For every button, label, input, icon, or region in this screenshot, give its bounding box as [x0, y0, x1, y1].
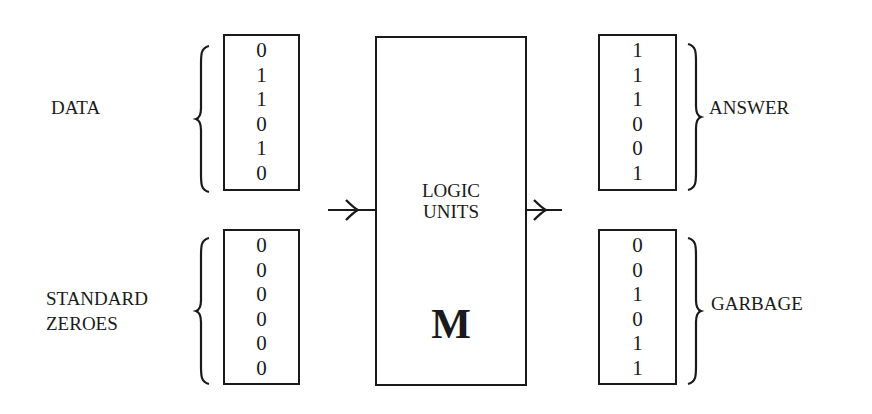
answer-bit: 0	[632, 112, 643, 137]
garbage-brace-icon	[686, 236, 706, 386]
standard-zeroes-label-line1: STANDARD	[46, 286, 148, 311]
data-register: 0 1 1 0 1 0	[223, 34, 300, 191]
standard-zeroes-brace-icon	[195, 236, 215, 386]
answer-bit: 1	[632, 161, 643, 186]
input-arrow-icon	[328, 198, 378, 222]
zero-bit: 0	[256, 307, 267, 332]
garbage-bit: 0	[632, 307, 643, 332]
data-bit: 1	[256, 136, 267, 161]
zero-bit: 0	[256, 282, 267, 307]
zero-bit: 0	[256, 331, 267, 356]
garbage-bit: 1	[632, 282, 643, 307]
zero-bit: 0	[256, 233, 267, 258]
data-bit: 0	[256, 38, 267, 63]
garbage-register: 0 0 1 0 1 1	[598, 229, 677, 385]
garbage-bit: 0	[632, 258, 643, 283]
answer-bit: 1	[632, 38, 643, 63]
logic-unit-symbol: M	[377, 300, 525, 348]
data-bit: 0	[256, 161, 267, 186]
logic-unit-title-line1: LOGIC	[377, 180, 525, 201]
answer-label: ANSWER	[709, 97, 789, 119]
standard-zeroes-label-line2: ZEROES	[46, 311, 148, 336]
data-bit: 0	[256, 112, 267, 137]
data-bit: 1	[256, 87, 267, 112]
data-brace-icon	[195, 44, 215, 194]
answer-bit: 0	[632, 136, 643, 161]
answer-register: 1 1 1 0 0 1	[598, 34, 677, 191]
data-bit: 1	[256, 63, 267, 88]
data-label: DATA	[51, 97, 100, 119]
garbage-bit: 1	[632, 331, 643, 356]
answer-bit: 1	[632, 87, 643, 112]
zero-bit: 0	[256, 356, 267, 381]
output-arrow-icon	[526, 198, 566, 222]
standard-zeroes-register: 0 0 0 0 0 0	[223, 229, 300, 385]
logic-unit-title: LOGIC UNITS	[377, 180, 525, 222]
answer-bit: 1	[632, 63, 643, 88]
garbage-bit: 0	[632, 233, 643, 258]
garbage-label: GARBAGE	[711, 293, 803, 315]
logic-unit-box: LOGIC UNITS M	[375, 36, 527, 386]
zero-bit: 0	[256, 258, 267, 283]
garbage-bit: 1	[632, 356, 643, 381]
standard-zeroes-label: STANDARD ZEROES	[46, 286, 148, 336]
logic-unit-title-line2: UNITS	[377, 201, 525, 222]
answer-brace-icon	[686, 42, 706, 192]
